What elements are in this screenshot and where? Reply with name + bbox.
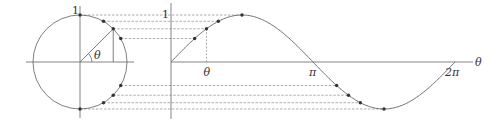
circle-point xyxy=(78,13,81,16)
graph-point xyxy=(382,107,385,110)
graph-point xyxy=(347,94,350,97)
angle-arc xyxy=(88,54,92,62)
graph-one-label: 1 xyxy=(162,8,169,21)
tick-label-theta: θ xyxy=(204,66,211,79)
circle-point xyxy=(78,107,81,110)
circle-point xyxy=(102,20,105,23)
graph-x-axis-label: θ xyxy=(475,56,482,69)
tick-label-2pi: 2π xyxy=(444,66,460,79)
circle-point xyxy=(119,84,122,87)
circle-point xyxy=(112,27,115,30)
tick-label-pi: π xyxy=(308,66,317,79)
graph-point xyxy=(193,37,196,40)
circle-theta-label: θ xyxy=(94,49,101,62)
circle-point xyxy=(112,94,115,97)
diagram-canvas: 1 θ 1 θ θ π 2π xyxy=(0,0,504,127)
graph-point xyxy=(335,84,338,87)
circle-one-label: 1 xyxy=(72,4,79,17)
sine-graph-group: 1 θ θ π 2π xyxy=(162,3,482,119)
graph-point xyxy=(240,13,243,16)
circle-point xyxy=(119,37,122,40)
graph-point xyxy=(359,101,362,104)
sine-unit-circle-diagram: 1 θ 1 θ θ π 2π xyxy=(0,0,504,127)
circle-point xyxy=(102,101,105,104)
graph-point xyxy=(205,27,208,30)
graph-point xyxy=(217,20,220,23)
